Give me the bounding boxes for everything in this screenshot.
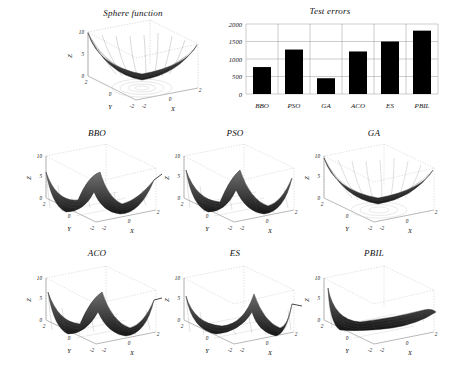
ytick-pbil-2: 2 [321, 323, 324, 329]
panel-title-es: ES [160, 248, 310, 258]
panel-title-pbil: PBIL [298, 248, 450, 258]
xtick-pso-n2: -2 [240, 225, 245, 231]
panel-title-sphere: Sphere function [58, 8, 208, 18]
panel-es: ES [160, 248, 310, 368]
xtick-es-n2: -2 [240, 347, 245, 353]
ztick-pbil-5: 5 [317, 295, 320, 301]
xtick-pbil-n2: -2 [380, 347, 385, 353]
ztick-es-5: 5 [177, 295, 180, 301]
panel-title-aco: ACO [22, 248, 172, 258]
ytick-ga-2: 2 [321, 201, 324, 207]
ytick-pbil-n2: -2 [368, 347, 373, 353]
ztick-ga-5: 5 [317, 173, 320, 179]
bar-PBIL [413, 31, 431, 94]
axis-label-y-es: Y [205, 347, 210, 354]
panel-pbil: PBIL [298, 248, 450, 368]
xtick-sphere-0: 0 [169, 96, 172, 102]
ytick-sphere-0: 0 [109, 91, 112, 97]
ytick-pso-0: 0 [206, 213, 209, 219]
xtick-PBIL: PBIL [414, 102, 430, 110]
panel-ga: GA [298, 128, 450, 246]
xtick-ga-0: 0 [406, 218, 409, 224]
panel-pso: PSO [160, 128, 310, 246]
panel-title-ga: GA [298, 128, 450, 138]
bar-chart: 2000 1500 1000 500 0 BBO PSO GA ACO ES P… [208, 4, 452, 120]
ytick-aco-2: 2 [43, 323, 46, 329]
axis-label-z-sphere: Z [66, 54, 73, 58]
axis-label-z-pbil: Z [303, 298, 310, 302]
xtick-ga-2: 2 [435, 209, 438, 215]
ztick-pso-10: 10 [175, 153, 181, 159]
xtick-aco-0: 0 [128, 340, 131, 346]
xtick-bbo-0: 0 [128, 218, 131, 224]
ztick-aco-5: 5 [39, 295, 42, 301]
ztick-ga-10: 10 [315, 153, 321, 159]
chart-title: Test errors [208, 6, 452, 16]
surface-plot-bbo: 10 5 0 Z 2 0 -2 -2 0 2 Y X [22, 128, 172, 246]
axis-label-x-sphere: X [170, 105, 176, 112]
ztick-aco-10: 10 [37, 275, 43, 281]
ztick-bbo-5: 5 [39, 173, 42, 179]
figure-canvas: Sphere function [0, 0, 456, 375]
ytick-ga-0: 0 [346, 213, 349, 219]
ytick-ga-n2: -2 [368, 225, 373, 231]
ztick-pso-5: 5 [177, 173, 180, 179]
panel-aco: ACO [22, 248, 172, 368]
ytick-bbo-0: 0 [68, 213, 71, 219]
xtick-pbil-0: 0 [406, 340, 409, 346]
bar-PSO [285, 50, 303, 94]
surface-plot-sphere: 10 5 0 Z 2 0 -2 -2 0 2 Y X [58, 8, 208, 123]
panel-sphere: Sphere function [58, 8, 208, 123]
xtick-pso-0: 0 [266, 218, 269, 224]
bar-BBO [253, 67, 271, 94]
panel-test-errors: Test errors [208, 4, 452, 124]
axis-label-y-pso: Y [205, 225, 210, 232]
xtick-sphere-2: 2 [199, 87, 202, 93]
ytick-bbo-n2: -2 [90, 225, 95, 231]
ytick-pso-2: 2 [181, 201, 184, 207]
ytick-aco-0: 0 [68, 335, 71, 341]
ytick-aco-n2: -2 [90, 347, 95, 353]
ytick-1000: 1000 [229, 56, 243, 63]
bar-ES [381, 42, 399, 95]
xtick-ga-n2: -2 [380, 225, 385, 231]
axis-label-x-aco: X [129, 349, 135, 356]
axis-label-x-pbil: X [407, 349, 413, 356]
xtick-bbo-n2: -2 [102, 225, 107, 231]
axis-label-y-bbo: Y [67, 225, 72, 232]
ytick-0: 0 [239, 91, 243, 98]
axis-label-z-ga: Z [303, 176, 310, 180]
xtick-GA: GA [321, 102, 331, 110]
ztick-pbil-10: 10 [315, 275, 321, 281]
axis-label-y-sphere: Y [108, 103, 113, 110]
axis-label-x-es: X [267, 349, 273, 356]
surface-plot-ga: 10 5 0 Z 2 0 -2 -2 0 2 Y X [298, 128, 450, 246]
ytick-sphere-2: 2 [85, 79, 88, 85]
ytick-es-n2: -2 [228, 347, 233, 353]
axis-label-y-ga: Y [345, 225, 350, 232]
axis-label-z-bbo: Z [25, 176, 32, 180]
xtick-ACO: ACO [350, 102, 365, 110]
axis-label-x-bbo: X [129, 227, 135, 234]
ztick-es-10: 10 [175, 275, 181, 281]
surface-plot-pso: 10 5 0 Z 2 0 -2 -2 0 2 Y X [160, 128, 310, 246]
axis-label-x-pso: X [267, 227, 273, 234]
surface-plot-pbil: 10 5 0 Z 2 0 -2 -2 0 2 Y X [298, 248, 450, 368]
axis-label-y-aco: Y [67, 347, 72, 354]
ytick-pbil-0: 0 [346, 335, 349, 341]
axis-label-x-ga: X [407, 227, 413, 234]
panel-title-pso: PSO [160, 128, 310, 138]
panel-title-bbo: BBO [22, 128, 172, 138]
axis-label-y-pbil: Y [345, 347, 350, 354]
xtick-pbil-2: 2 [435, 331, 438, 337]
panel-bbo: BBO [22, 128, 172, 246]
axis-label-z-aco: Z [25, 298, 32, 302]
axis-label-z-es: Z [163, 298, 170, 302]
surface-plot-es: 10 5 0 Z 2 0 -2 -2 0 2 Y X [160, 248, 310, 368]
xtick-ES: ES [385, 102, 394, 110]
xtick-PSO: PSO [287, 102, 301, 110]
xtick-BBO: BBO [255, 102, 269, 110]
surface-plot-aco: 10 5 0 Z 2 0 -2 -2 0 2 Y X [22, 248, 172, 368]
bar-GA [317, 78, 335, 94]
ytick-1500: 1500 [229, 38, 243, 45]
